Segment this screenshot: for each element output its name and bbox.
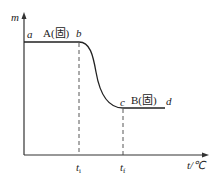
x-axis-label: t/℃ bbox=[187, 160, 205, 171]
point-label-b: b bbox=[76, 28, 82, 39]
phase-label-b: B(固) bbox=[131, 95, 157, 106]
x-tick-tf-sub: f bbox=[123, 167, 125, 175]
phase-label-a: A(固) bbox=[43, 28, 69, 39]
x-tick-ti: ti bbox=[76, 162, 81, 175]
point-label-c: c bbox=[120, 97, 125, 108]
x-axis-arrow-icon bbox=[202, 153, 209, 158]
thermogravimetric-chart bbox=[0, 0, 221, 182]
point-label-a: a bbox=[27, 29, 33, 40]
y-axis-arrow-icon bbox=[22, 12, 27, 19]
x-tick-ti-sub: i bbox=[79, 167, 81, 175]
point-label-d: d bbox=[166, 96, 172, 107]
x-tick-tf: tf bbox=[120, 162, 125, 175]
y-axis-label: m bbox=[11, 12, 19, 23]
